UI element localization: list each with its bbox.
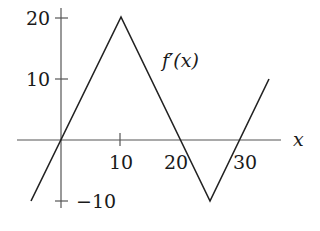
y-tick-label-20: 20 (26, 7, 50, 29)
x-tick-label-20: 20 (164, 151, 188, 173)
x-axis-label: x (293, 128, 304, 150)
y-tick-label-10: 10 (26, 68, 50, 90)
x-tick-label-10: 10 (109, 151, 133, 173)
chart: 20 10 −10 10 20 30 x f′(x) (0, 0, 320, 231)
function-label: f′(x) (160, 49, 199, 71)
y-tick-label-neg10: −10 (76, 190, 116, 212)
fprime-line (31, 17, 269, 201)
x-tick-label-30: 30 (233, 151, 257, 173)
